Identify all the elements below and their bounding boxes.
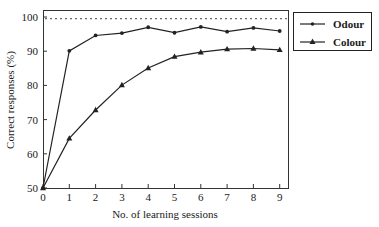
circle-marker-icon <box>94 34 98 38</box>
x-axis-title: No. of learning sessions <box>112 208 218 220</box>
y-tick-label: 60 <box>27 148 39 160</box>
circle-marker-icon <box>252 26 256 30</box>
x-tick-label: 7 <box>224 191 230 203</box>
circle-marker-icon <box>278 29 282 33</box>
triangle-marker-icon <box>119 82 125 87</box>
circle-marker-icon <box>311 22 315 26</box>
x-tick-label: 8 <box>251 191 257 203</box>
x-tick-label: 9 <box>277 191 283 203</box>
x-tick-label: 3 <box>119 191 125 203</box>
circle-marker-icon <box>173 31 177 35</box>
circle-marker-icon <box>146 25 150 29</box>
circle-marker-icon <box>120 31 124 35</box>
x-tick-label: 0 <box>40 191 46 203</box>
x-tick-label: 5 <box>172 191 178 203</box>
legend: Odour Colour <box>294 13 372 51</box>
circle-marker-icon <box>67 49 71 53</box>
x-tick-label: 1 <box>67 191 73 203</box>
series-colour <box>40 45 283 190</box>
y-tick-label: 70 <box>27 114 39 126</box>
legend-label-colour: Colour <box>333 36 366 48</box>
y-tick-label: 90 <box>27 45 39 57</box>
series-odour <box>41 25 282 190</box>
line-chart: 5060708090100 0123456789 No. of learning… <box>0 0 379 227</box>
plot-frame <box>44 11 289 189</box>
x-tick-label: 2 <box>93 191 99 203</box>
legend-label-odour: Odour <box>333 18 364 30</box>
x-tick-label: 4 <box>145 191 151 203</box>
y-tick-label: 100 <box>22 11 39 23</box>
y-axis-title: Correct responses (%) <box>4 51 17 149</box>
circle-marker-icon <box>199 25 203 29</box>
y-tick-label: 80 <box>27 79 39 91</box>
circle-marker-icon <box>225 30 229 34</box>
series-layer <box>40 25 283 190</box>
plot-area-border <box>44 11 289 189</box>
x-axis-ticks: 0123456789 <box>40 184 283 203</box>
x-tick-label: 6 <box>198 191 204 203</box>
y-tick-label: 50 <box>27 182 39 194</box>
